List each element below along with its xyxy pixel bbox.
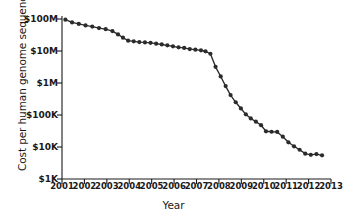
data-point: [303, 152, 307, 156]
data-point: [132, 39, 136, 43]
data-point: [193, 48, 197, 52]
data-point: [292, 144, 296, 148]
x-axis-title: Year: [0, 199, 347, 211]
data-point: [219, 74, 223, 78]
data-point: [298, 148, 302, 152]
data-point: [314, 152, 318, 156]
data-point: [239, 106, 243, 110]
data-point: [259, 123, 263, 127]
data-point: [249, 116, 253, 120]
series-markers: [63, 18, 324, 158]
data-point: [176, 45, 180, 49]
data-point: [244, 112, 248, 116]
data-point: [320, 153, 324, 157]
data-point: [160, 42, 164, 46]
x-tick-label: 2007: [185, 181, 209, 191]
data-point: [254, 120, 258, 124]
data-point: [203, 49, 207, 53]
x-tick-label: 2013: [319, 181, 343, 191]
data-point: [281, 135, 285, 139]
data-point: [182, 46, 186, 50]
data-point: [208, 52, 212, 56]
data-point: [264, 129, 268, 133]
data-point: [213, 65, 217, 69]
x-tick-label: 2001: [50, 181, 74, 191]
data-point: [199, 48, 203, 52]
x-tick-label: 2004: [117, 181, 141, 191]
x-tick-label: 2005: [140, 181, 164, 191]
data-point: [143, 40, 147, 44]
data-point: [309, 153, 313, 157]
x-tick-label: 2008: [207, 181, 231, 191]
x-tick-label: 2006: [162, 181, 186, 191]
data-point: [126, 39, 130, 43]
data-point: [165, 43, 169, 47]
x-tick-label: 2010: [252, 181, 276, 191]
data-point: [286, 140, 290, 144]
data-point: [234, 100, 238, 104]
data-point: [83, 23, 87, 27]
x-tick-label: 2003: [95, 181, 119, 191]
data-point: [70, 20, 74, 24]
data-point: [171, 44, 175, 48]
data-point: [121, 36, 125, 40]
data-point: [104, 27, 108, 31]
data-point: [270, 130, 274, 134]
data-point: [110, 29, 114, 33]
x-tick-label: 2012: [297, 181, 321, 191]
x-tick-label: 2002: [73, 181, 97, 191]
data-series-cost-per-genome: [63, 18, 324, 158]
data-point: [137, 40, 141, 44]
x-tick-label: 2011: [274, 181, 298, 191]
data-point: [188, 47, 192, 51]
data-point: [77, 22, 81, 26]
data-point: [228, 93, 232, 97]
axis-lines: [62, 16, 331, 179]
data-point: [154, 42, 158, 46]
data-point: [97, 26, 101, 30]
data-point: [116, 32, 120, 36]
data-point: [90, 24, 94, 28]
data-point: [275, 130, 279, 134]
chart-container: Cost per human genome sequenced $100M$10…: [0, 0, 347, 223]
data-point: [224, 84, 228, 88]
y-axis-ticks: [57, 19, 62, 179]
x-axis-tick-labels: 2001200220032004200520062007200820092010…: [0, 181, 347, 195]
data-point: [148, 41, 152, 45]
x-tick-label: 2009: [229, 181, 253, 191]
data-point: [63, 18, 67, 22]
